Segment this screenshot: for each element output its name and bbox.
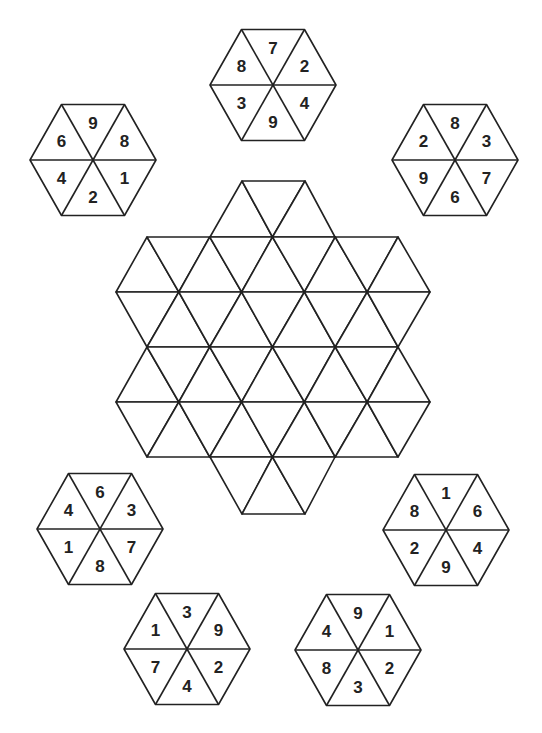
tile-number: 1 (120, 169, 129, 188)
tile-number: 1 (441, 484, 450, 503)
tile-number: 3 (482, 132, 491, 151)
tile-bottom-left[interactable]: 392471 (124, 594, 250, 705)
tile-top-left[interactable]: 981246 (30, 105, 156, 216)
tile-number: 7 (151, 658, 160, 677)
tile-number: 9 (214, 621, 223, 640)
puzzle-canvas: 7249389812468376926378141649283924719123… (0, 0, 542, 733)
tile-number: 6 (57, 132, 66, 151)
tile-number: 3 (237, 94, 246, 113)
tile-number: 2 (214, 658, 223, 677)
tile-number: 3 (353, 678, 362, 697)
tile-number: 8 (450, 114, 459, 133)
tile-number: 8 (120, 132, 129, 151)
tile-number: 1 (151, 621, 160, 640)
tile-number: 6 (450, 188, 459, 207)
central-triangle-grid[interactable] (116, 181, 430, 514)
tile-number: 9 (88, 114, 97, 133)
tile-bottom-right[interactable]: 912384 (295, 595, 421, 706)
tile-number: 4 (57, 169, 67, 188)
tile-number: 1 (64, 538, 73, 557)
tile-number: 4 (300, 94, 310, 113)
tile-middle-left[interactable]: 637814 (37, 474, 163, 585)
tile-number: 6 (473, 502, 482, 521)
tile-number: 6 (95, 483, 104, 502)
tile-number: 2 (88, 188, 97, 207)
tile-number: 3 (182, 603, 191, 622)
tile-number: 3 (127, 501, 136, 520)
tile-number: 4 (322, 622, 332, 641)
tile-number: 4 (64, 501, 74, 520)
tile-number: 9 (268, 113, 277, 132)
tile-number: 4 (473, 539, 483, 558)
tile-number: 8 (410, 502, 419, 521)
tile-number: 2 (385, 659, 394, 678)
tile-number: 8 (237, 57, 246, 76)
tile-number: 2 (300, 57, 309, 76)
tile-number: 2 (419, 132, 428, 151)
tile-top-right[interactable]: 837692 (392, 105, 518, 216)
tile-middle-right[interactable]: 164928 (383, 475, 509, 586)
tile-number: 4 (182, 677, 192, 696)
tile-number: 9 (441, 558, 450, 577)
tile-number: 9 (419, 169, 428, 188)
tile-number: 7 (127, 538, 136, 557)
tile-number: 8 (322, 659, 331, 678)
tile-top[interactable]: 724938 (210, 30, 336, 141)
tile-number: 7 (268, 39, 277, 58)
tile-number: 1 (385, 622, 394, 641)
tile-number: 7 (482, 169, 491, 188)
tile-number: 8 (95, 557, 104, 576)
tile-number: 9 (353, 604, 362, 623)
tile-number: 2 (410, 539, 419, 558)
